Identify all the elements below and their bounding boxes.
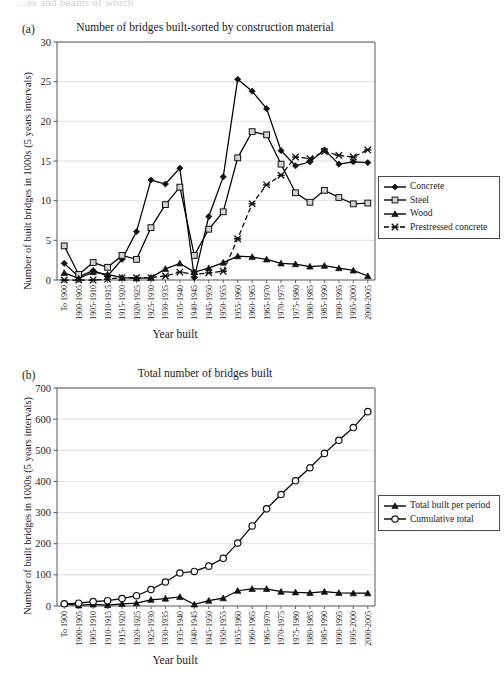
data-point-square	[90, 260, 96, 266]
data-point-circle	[61, 601, 67, 607]
data-point-square	[134, 256, 140, 262]
data-point-circle	[234, 540, 240, 546]
data-point-diamond	[133, 229, 139, 235]
data-point-circle	[321, 450, 327, 456]
legend-circle-icon	[383, 513, 407, 525]
data-point-cross	[335, 152, 342, 158]
legend-cross-icon	[383, 221, 407, 233]
y-axis-tick-label: 0	[46, 275, 51, 286]
y-axis-tick-label: 500	[35, 445, 51, 456]
data-point-square	[61, 243, 67, 249]
data-point-square	[322, 187, 328, 193]
data-point-circle	[263, 506, 269, 512]
y-axis-tick-label: 600	[35, 414, 51, 425]
y-axis-tick-label: 30	[41, 37, 52, 48]
data-point-square	[365, 200, 371, 206]
data-point-square	[191, 253, 197, 259]
data-point-cross	[263, 182, 270, 188]
data-point-cross	[391, 224, 398, 230]
data-point-diamond	[392, 184, 398, 190]
x-axis-tick-label: 1960-1965	[248, 285, 257, 320]
legend-label: Total built per period	[410, 501, 490, 511]
data-point-square	[105, 264, 111, 270]
x-axis-tick-label: 1975-1980	[292, 285, 301, 320]
x-axis-tick-label: 1975-1980	[292, 611, 301, 646]
data-point-square	[336, 195, 342, 201]
x-axis-tick-label: 1915-1920	[118, 611, 127, 646]
x-axis-tick-label: 1990-1995	[335, 285, 344, 320]
data-point-square	[206, 226, 212, 232]
legend-item: Cumulative total	[383, 513, 494, 527]
data-point-square	[350, 201, 356, 207]
data-point-circle	[365, 408, 371, 414]
data-point-square	[235, 155, 241, 161]
data-point-square	[307, 199, 313, 205]
x-axis-tick-label: 1925-1930	[147, 611, 156, 646]
x-axis-tick-label: 1950-1955	[219, 285, 228, 320]
legend-label: Steel	[410, 196, 429, 206]
x-axis-tick-label: 1930-1935	[161, 285, 170, 320]
data-point-circle	[177, 570, 183, 576]
y-axis-tick-label: 15	[41, 156, 52, 167]
x-axis-tick-label: 1935-1940	[176, 611, 185, 646]
data-point-circle	[249, 523, 255, 529]
data-point-square	[119, 253, 125, 259]
data-point-circle	[191, 568, 197, 574]
data-point-diamond	[365, 159, 371, 165]
data-point-square	[163, 202, 169, 208]
data-point-triangle	[177, 260, 183, 266]
data-point-circle	[90, 598, 96, 604]
x-axis-tick-label: 1920-1925	[133, 611, 142, 646]
y-axis-tick-label: 100	[35, 569, 51, 580]
panel-b-legend: Total built per periodCumulative total	[378, 495, 500, 531]
data-point-circle	[104, 598, 110, 604]
x-axis-tick-label: 1945-1950	[205, 611, 214, 646]
legend-item: Steel	[383, 194, 494, 208]
data-point-cross	[220, 268, 227, 274]
chart-panel-b: (b) Total number of bridges built Number…	[0, 360, 504, 683]
x-axis-tick-label: 1955-1960	[234, 611, 243, 646]
y-axis-tick-label: 25	[41, 76, 52, 87]
cut-off-header-text: ...es and beams of which	[18, 0, 248, 8]
x-axis-tick-label: 1995-2000	[349, 611, 358, 646]
data-point-circle	[206, 563, 212, 569]
data-point-cross	[234, 236, 241, 242]
legend-label: Concrete	[410, 182, 444, 192]
data-point-diamond	[148, 177, 154, 183]
data-point-circle	[75, 600, 81, 606]
x-axis-tick-label: 1985-1990	[320, 611, 329, 646]
data-point-square	[392, 197, 398, 203]
y-axis-tick-label: 400	[35, 476, 51, 487]
legend-item: Wood	[383, 207, 494, 221]
data-point-cross	[277, 172, 284, 178]
data-point-square	[293, 190, 299, 196]
x-axis-tick-label: 1950-1955	[219, 611, 228, 646]
data-point-circle	[278, 491, 284, 497]
panel-a-legend: ConcreteSteelWoodPrestressed concrete	[378, 176, 500, 239]
data-point-square	[148, 225, 154, 231]
panel-a-plot: 051015202530To 19001900-19051905-1910191…	[25, 36, 425, 336]
data-point-circle	[350, 424, 356, 430]
panel-a-title: Number of bridges built-sorted by constr…	[55, 21, 355, 33]
data-point-cross	[249, 201, 256, 207]
data-point-circle	[119, 595, 125, 601]
data-point-square	[220, 209, 226, 215]
series-line-prestressed-concrete	[64, 150, 368, 280]
x-axis-tick-label: 1945-1950	[205, 285, 214, 320]
x-axis-tick-label: 1985-1990	[320, 285, 329, 320]
y-axis-tick-label: 700	[35, 383, 51, 394]
figure-page: ...es and beams of which (a) Number of b…	[0, 0, 504, 683]
x-axis-tick-label: 2000-2005	[364, 285, 373, 320]
y-axis-tick-label: 20	[41, 116, 52, 127]
legend-triangle-icon	[383, 208, 407, 220]
x-axis-tick-label: 1995-2000	[349, 285, 358, 320]
legend-item: Concrete	[383, 180, 494, 194]
x-axis-tick-label: 1900-1905	[75, 285, 84, 320]
data-point-square	[278, 161, 284, 167]
data-point-circle	[392, 516, 398, 522]
plot-frame	[57, 388, 375, 606]
x-axis-tick-label: 1930-1935	[161, 611, 170, 646]
data-point-square	[249, 129, 255, 135]
x-axis-tick-label: 1965-1970	[263, 611, 272, 646]
x-axis-tick-label: To 1900	[60, 611, 69, 637]
